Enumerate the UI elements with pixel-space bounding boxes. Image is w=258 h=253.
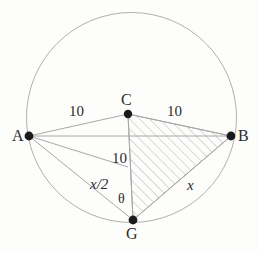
point-label-a: A — [12, 128, 24, 144]
segment-a-g — [29, 136, 133, 220]
vertex-a-dot — [25, 132, 34, 141]
length-label-ac: 10 — [69, 104, 84, 119]
length-label-half-x: x/2 — [90, 177, 108, 192]
shaded-triangle-cgb — [128, 114, 231, 220]
point-label-g: G — [126, 226, 138, 242]
geometry-figure: A B C G 10 10 10 x/2 x θ — [0, 0, 258, 253]
angle-label-theta: θ — [118, 192, 125, 206]
vertex-c-dot — [124, 110, 132, 118]
point-label-c: C — [121, 92, 132, 108]
vertex-b-dot — [227, 132, 236, 141]
length-label-cb: 10 — [167, 104, 182, 119]
point-label-b: B — [238, 128, 249, 144]
geometry-canvas — [0, 0, 258, 253]
vertex-g-dot — [129, 216, 138, 225]
length-label-cg: 10 — [112, 151, 127, 166]
length-label-x: x — [187, 178, 194, 193]
